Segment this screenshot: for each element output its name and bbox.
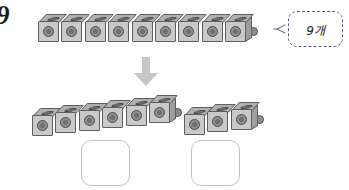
worksheet-canvas: 9 9개 bbox=[0, 0, 349, 190]
count-callout-label: 9개 bbox=[306, 21, 325, 38]
cube-stud-icon bbox=[189, 119, 200, 130]
top-row-cube bbox=[38, 14, 60, 36]
cube-stud-icon bbox=[137, 26, 148, 37]
top-row-cube bbox=[202, 14, 224, 36]
top-row-cube bbox=[132, 14, 154, 36]
down-arrow-icon bbox=[133, 57, 159, 91]
top-row-cube bbox=[85, 14, 107, 36]
top-row-cube bbox=[108, 14, 130, 36]
bottom-left-cube-train bbox=[32, 90, 182, 130]
cube-stud-icon bbox=[154, 107, 165, 118]
top-row-cube bbox=[61, 14, 83, 36]
top-row-cube bbox=[155, 14, 177, 36]
top-cube-train bbox=[38, 10, 253, 44]
left-answer-box[interactable] bbox=[81, 140, 130, 186]
left-pointer-icon bbox=[272, 23, 286, 35]
callout-connector-icon bbox=[272, 23, 286, 37]
cube-stud-icon bbox=[160, 26, 171, 37]
right-answer-box[interactable] bbox=[191, 140, 240, 186]
cube-stud-icon bbox=[84, 115, 95, 126]
bottom-left-cube bbox=[32, 108, 54, 130]
cube-stud-icon bbox=[131, 110, 142, 121]
problem-number: 9 bbox=[0, 2, 9, 29]
cube-stud-icon bbox=[37, 120, 48, 131]
bottom-right-cube bbox=[184, 107, 206, 129]
cube-top-knob-icon bbox=[133, 101, 150, 105]
cube-stud-icon bbox=[236, 114, 247, 125]
count-callout: 9개 bbox=[288, 11, 343, 47]
bottom-right-cube-train bbox=[184, 93, 268, 133]
cube-stud-icon bbox=[207, 26, 218, 37]
cube-stud-icon bbox=[43, 26, 54, 37]
top-row-cube bbox=[225, 14, 247, 36]
cube-stud-icon bbox=[90, 26, 101, 37]
top-row-cube bbox=[178, 14, 200, 36]
